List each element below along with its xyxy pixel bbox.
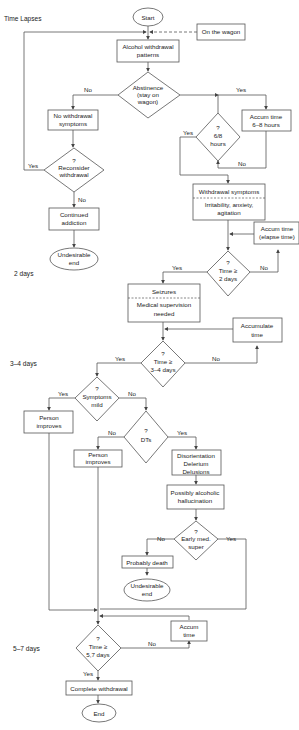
- svg-text:No withdrawal: No withdrawal: [54, 112, 93, 119]
- svg-text:Early med.: Early med.: [181, 535, 211, 542]
- early-med-super-decision: ? Early med. super: [174, 521, 218, 560]
- edge-label-dts-yes: Yes: [177, 429, 187, 436]
- six-eight-hours-decision: ? 6/8 hours: [196, 113, 240, 161]
- svg-text:?: ?: [95, 385, 99, 392]
- abstinence-decision: Abstinence (stay on wagon): [118, 72, 180, 118]
- svg-text:Abstinence: Abstinence: [133, 84, 164, 91]
- svg-text:?: ?: [72, 157, 76, 164]
- svg-text:6–8 hours: 6–8 hours: [252, 121, 280, 128]
- svg-text:Time ≥: Time ≥: [89, 643, 108, 650]
- withdrawal-symptoms-box: Withdrawal symptoms Irritability, anxiet…: [193, 184, 265, 220]
- svg-text:wagon): wagon): [137, 98, 158, 105]
- edge-label-reconsider-yes: Yes: [28, 162, 38, 169]
- time-5-7-days-decision: ? Time ≥ 5,7 days: [76, 625, 121, 671]
- reconsider-withdrawal-decision: ? Reconsider withdrawal: [44, 148, 104, 192]
- time-label-5-7-days: 5–7 days: [13, 645, 40, 653]
- svg-text:improves: improves: [36, 422, 61, 429]
- no-withdrawal-symptoms-box: No withdrawal symptoms: [48, 110, 98, 130]
- svg-text:Time ≥: Time ≥: [219, 267, 238, 274]
- on-the-wagon-box: On the wagon: [197, 24, 245, 40]
- flowchart: Time Lapses 2 days 3–4 days 5–7 days: [0, 0, 299, 730]
- svg-text:Undesirable: Undesirable: [130, 582, 164, 589]
- svg-text:?: ?: [216, 124, 220, 131]
- alcohol-withdrawal-patterns-box: Alcohol withdrawal patterns: [117, 40, 179, 62]
- start-node: Start: [133, 8, 163, 26]
- dts-decision: ? DTs: [124, 411, 168, 463]
- svg-text:DTs: DTs: [141, 436, 152, 443]
- svg-text:time: time: [183, 631, 195, 638]
- svg-text:Accumulate: Accumulate: [241, 322, 274, 329]
- edge-label-time2-no: No: [260, 264, 268, 271]
- time-3-4-days-decision: ? Time ≥ 3–4 days: [141, 341, 185, 387]
- time-label-3-4-days: 3–4 days: [10, 360, 37, 368]
- seizures-box: Seizures Medical supervision needed: [128, 284, 200, 322]
- edge-label-abstinence-yes: Yes: [236, 86, 246, 93]
- accum-time-6-8-hours-box: Accum time 6–8 hours: [242, 110, 291, 131]
- svg-text:end: end: [69, 259, 80, 266]
- edge-label-six-eight-yes: Yes: [183, 129, 193, 136]
- svg-text:Irritability, anxiety,: Irritability, anxiety,: [205, 201, 254, 208]
- svg-text:hours: hours: [210, 140, 225, 147]
- svg-text:Accum: Accum: [180, 623, 199, 630]
- edge-label-dts-no: No: [108, 429, 116, 436]
- svg-text:Start: Start: [141, 14, 154, 21]
- svg-text:Time ≥: Time ≥: [154, 358, 173, 365]
- svg-text:Seizures: Seizures: [152, 288, 176, 295]
- undesirable-end-1: Undesirable end: [50, 248, 98, 270]
- svg-text:Reconsider: Reconsider: [58, 164, 89, 171]
- svg-text:Continued: Continued: [60, 211, 89, 218]
- svg-text:Undesirable: Undesirable: [57, 251, 91, 258]
- svg-text:3–4 days: 3–4 days: [150, 366, 175, 373]
- svg-text:Medical supervision: Medical supervision: [137, 301, 192, 308]
- svg-text:Alcohol withdrawal: Alcohol withdrawal: [122, 43, 173, 50]
- edge-label-early-no: No: [157, 535, 165, 542]
- svg-text:Delerium: Delerium: [184, 460, 209, 467]
- svg-text:symptoms: symptoms: [59, 120, 87, 127]
- svg-text:(stay on: (stay on: [137, 91, 160, 98]
- svg-text:improves: improves: [85, 458, 110, 465]
- complete-withdrawal-box: Complete withdrawal: [66, 681, 132, 695]
- svg-text:?: ?: [161, 350, 165, 357]
- time-2-days-decision: ? Time ≥ 2 days: [207, 251, 250, 296]
- edge-label-time34-no: No: [212, 355, 220, 362]
- edge-label-time2-yes: Yes: [172, 264, 182, 271]
- edge-label-time57-no: No: [148, 640, 156, 647]
- svg-text:Symptoms: Symptoms: [82, 393, 111, 400]
- probably-death-box: Probably death: [122, 556, 173, 568]
- edge-label-time34-yes: Yes: [115, 355, 125, 362]
- accum-elapse-time-box: Accum time (elapse time): [254, 222, 299, 244]
- svg-text:Probably death: Probably death: [126, 559, 168, 566]
- edge-label-reconsider-no: No: [78, 196, 86, 203]
- svg-text:?: ?: [96, 635, 100, 642]
- svg-text:?: ?: [194, 528, 198, 535]
- time-label-2-days: 2 days: [14, 270, 34, 278]
- svg-text:Withdrawal symptoms: Withdrawal symptoms: [199, 188, 260, 195]
- edge-label-early-yes: Yes: [226, 535, 236, 542]
- edge-label-abstinence-no: No: [84, 86, 92, 93]
- svg-text:patterns: patterns: [137, 51, 159, 58]
- svg-text:(elapse time): (elapse time): [259, 233, 295, 240]
- svg-text:?: ?: [144, 427, 148, 434]
- svg-text:hallucination: hallucination: [178, 497, 213, 504]
- edge-label-time57-yes: Yes: [83, 670, 93, 677]
- svg-text:agitation: agitation: [217, 209, 241, 216]
- svg-text:addiction: addiction: [62, 219, 87, 226]
- svg-text:super: super: [188, 543, 203, 550]
- disorientation-box: Disorientation Delerium Delusions: [172, 450, 221, 475]
- svg-text:On the wagon: On the wagon: [202, 28, 241, 35]
- svg-text:withdrawal: withdrawal: [58, 171, 88, 178]
- end-node: End: [82, 704, 116, 722]
- continued-addiction-box: Continued addiction: [49, 208, 99, 230]
- svg-text:Complete withdrawal: Complete withdrawal: [70, 685, 127, 692]
- svg-text:mild: mild: [91, 401, 103, 408]
- svg-text:needed: needed: [154, 310, 175, 317]
- edge-label-mild-no: No: [128, 390, 136, 397]
- svg-text:2 days: 2 days: [219, 275, 237, 282]
- symptoms-mild-decision: ? Symptoms mild: [75, 377, 119, 421]
- svg-text:Person: Person: [39, 414, 59, 421]
- svg-text:5,7 days: 5,7 days: [86, 651, 109, 658]
- person-improves-box-2: Person improves: [74, 450, 122, 467]
- svg-text:Disorientation: Disorientation: [177, 452, 215, 459]
- possibly-alcoholic-hallucination-box: Possibly alcoholic hallucination: [167, 485, 224, 509]
- edge-label-mild-yes: Yes: [58, 390, 68, 397]
